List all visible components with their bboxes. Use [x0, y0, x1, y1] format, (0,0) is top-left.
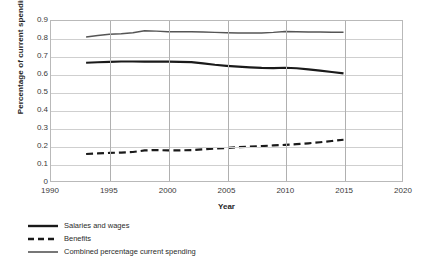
solid-thick-line-icon — [28, 221, 58, 231]
horizontal-gridline — [51, 75, 402, 76]
x-tick-label: 1990 — [27, 186, 73, 196]
x-axis-title: Year — [50, 202, 403, 211]
x-tick-label: 1995 — [86, 186, 132, 196]
y-tick-label: 0.1 — [22, 160, 48, 168]
x-axis-tick-labels: 1990199520002005201020152020 — [0, 186, 432, 198]
series-line-2 — [86, 31, 343, 37]
horizontal-gridline — [51, 147, 402, 148]
vertical-gridline — [169, 21, 170, 181]
y-tick-label: 0.2 — [22, 142, 48, 150]
legend-label: Combined percentage current spending — [64, 247, 196, 256]
chart-legend: Salaries and wagesBenefitsCombined perce… — [28, 219, 328, 258]
series-lines — [51, 21, 402, 181]
x-tick-label: 2000 — [145, 186, 191, 196]
y-tick-label: 0.3 — [22, 124, 48, 132]
dashed-line-icon — [28, 234, 58, 244]
series-line-0 — [86, 62, 343, 74]
y-tick-label: 0 — [22, 178, 48, 186]
y-tick-label: 0.4 — [22, 106, 48, 114]
solid-thin-line-icon — [28, 247, 58, 257]
y-tick-label: 0.6 — [22, 70, 48, 78]
vertical-gridline — [110, 21, 111, 181]
legend-label: Salaries and wages — [64, 221, 129, 230]
y-tick-label: 0.5 — [22, 88, 48, 96]
horizontal-gridline — [51, 39, 402, 40]
plot-area — [50, 20, 403, 182]
x-tick-label: 2020 — [380, 186, 426, 196]
horizontal-gridline — [51, 165, 402, 166]
legend-item: Benefits — [28, 232, 328, 245]
y-tick-label: 0.8 — [22, 34, 48, 42]
legend-label: Benefits — [64, 234, 91, 243]
y-tick-label: 0.9 — [22, 16, 48, 24]
x-tick-label: 2015 — [321, 186, 367, 196]
x-tick-label: 2005 — [204, 186, 250, 196]
horizontal-gridline — [51, 111, 402, 112]
chart-figure: Percentage of current spending 00.10.20.… — [0, 0, 432, 268]
vertical-gridline — [286, 21, 287, 181]
x-tick-label: 2010 — [262, 186, 308, 196]
horizontal-gridline — [51, 57, 402, 58]
legend-item: Combined percentage current spending — [28, 245, 328, 258]
vertical-gridline — [228, 21, 229, 181]
horizontal-gridline — [51, 93, 402, 94]
y-tick-label: 0.7 — [22, 52, 48, 60]
vertical-gridline — [345, 21, 346, 181]
legend-item: Salaries and wages — [28, 219, 328, 232]
horizontal-gridline — [51, 129, 402, 130]
